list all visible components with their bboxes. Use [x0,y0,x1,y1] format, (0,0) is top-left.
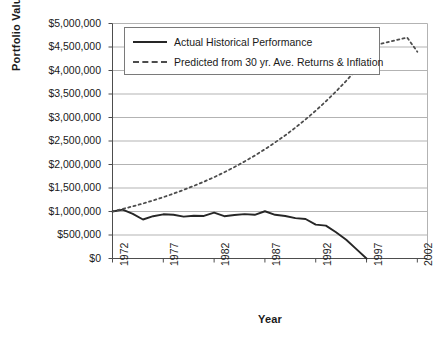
x-axis-tick-label: 1992 [321,242,333,265]
legend-label-actual: Actual Historical Performance [174,36,312,48]
x-axis-tick-label: 2002 [422,242,434,265]
solid-line-swatch [133,37,167,47]
chart-legend: Actual Historical Performance Predicted … [124,27,380,75]
x-axis-title-label: Year [112,313,428,325]
x-axis-tick-label: 1987 [270,242,282,265]
x-axis-tick-label: 1982 [219,242,231,265]
x-axis-tick-label: 1977 [168,242,180,265]
legend-entry-actual: Actual Historical Performance [133,34,312,50]
x-axis-tick-label: 1972 [118,242,130,265]
x-axis-tick-label: 1997 [372,242,384,265]
legend-entry-predicted: Predicted from 30 yr. Ave. Returns & Inf… [133,54,383,70]
legend-label-predicted: Predicted from 30 yr. Ave. Returns & Inf… [174,56,383,68]
dashed-line-swatch [133,57,167,67]
portfolio-value-line-chart: Portfolio Value $0$500,000$1,000,000$1,5… [0,0,445,337]
